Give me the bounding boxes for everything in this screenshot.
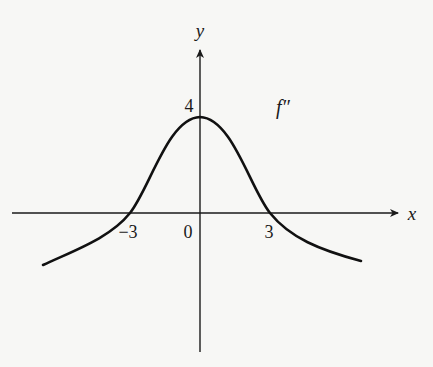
tick-label-x-3: 3 [265,222,274,242]
curve-label: f″ [276,96,291,119]
tick-label-x-neg3: −3 [118,222,137,242]
tick-label-y-4: 4 [185,96,194,116]
f-double-prime-curve [43,117,361,265]
y-axis-label: y [194,20,205,41]
tick-label-x-0: 0 [184,222,193,242]
graph-of-f-double-prime: y x f″ 4 −3 0 3 [0,0,433,367]
x-axis-label: x [407,203,417,224]
